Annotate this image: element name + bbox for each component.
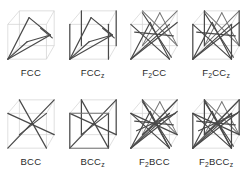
cube-wireframe — [8, 11, 54, 59]
caption-fcc-text: FCC — [21, 67, 41, 78]
bcc-body-diagonals — [8, 100, 54, 148]
caption-f2bcc-z-sub2: z — [230, 161, 234, 168]
cell-fcc: FCC — [0, 0, 62, 89]
caption-bcc-z: BCCz — [80, 157, 104, 167]
caption-f2bcc-z: F2BCCz — [199, 157, 233, 167]
caption-bcc: BCC — [21, 157, 42, 167]
caption-f2cc-z: F2CCz — [202, 68, 230, 78]
cell-fcc-z: FCCz — [62, 0, 124, 89]
f2cc-z-front-struts — [193, 13, 239, 59]
caption-fcc-z: FCCz — [81, 68, 105, 78]
fcc-z-diagram — [64, 3, 122, 67]
art-bcc-z — [64, 92, 122, 156]
fcc-struts — [8, 18, 52, 60]
caption-bcc-z-text: BCC — [80, 156, 101, 167]
art-fcc — [2, 3, 60, 67]
cube-wireframe — [69, 11, 115, 59]
fcc-diagram — [2, 3, 60, 67]
caption-f2bcc-post: BCC — [149, 156, 170, 167]
art-bcc — [2, 92, 60, 156]
cell-bcc-z: BCCz — [62, 89, 124, 178]
caption-f2bcc-z-sub: 2 — [205, 161, 209, 168]
f2bcc-z-body-diagonals — [193, 100, 239, 148]
art-f2cc — [125, 3, 183, 67]
caption-fcc-z-sub: z — [101, 72, 105, 79]
caption-f2bcc-z-post: BCC — [209, 156, 230, 167]
cell-bcc: BCC — [0, 89, 62, 178]
caption-f2bcc-sub: 2 — [145, 161, 149, 168]
caption-bcc-z-sub: z — [101, 161, 105, 168]
cell-f2cc-z: F2CCz — [185, 0, 247, 89]
bcc-z-diagram — [64, 92, 122, 156]
caption-f2cc-z-post: CC — [212, 67, 226, 78]
caption-f2cc-sub: 2 — [148, 72, 152, 79]
caption-f2cc-z-sub2: z — [226, 72, 230, 79]
f2bcc-z-diagram — [187, 92, 245, 156]
caption-f2cc-z-sub: 2 — [208, 72, 212, 79]
bcc-diagram — [2, 92, 60, 156]
caption-f2cc-post: CC — [152, 67, 166, 78]
cell-f2bcc: F2BCC — [124, 89, 186, 178]
cell-f2bcc-z: F2BCCz — [185, 89, 247, 178]
f2bcc-body-diagonals — [131, 100, 177, 148]
cell-grid: FCC — [0, 0, 247, 178]
caption-f2cc: F2CC — [142, 68, 166, 78]
fcc-z-vertical-struts — [69, 11, 115, 59]
caption-f2bcc: F2BCC — [139, 157, 170, 167]
art-fcc-z — [64, 3, 122, 67]
art-f2cc-z — [187, 3, 245, 67]
lattice-topology-figure: FCC — [0, 0, 247, 178]
f2cc-z-diagram — [187, 3, 245, 67]
fcc-z-struts — [69, 18, 113, 60]
f2bcc-diagram — [125, 92, 183, 156]
f2cc-diagram — [125, 3, 183, 67]
art-f2bcc-z — [187, 92, 245, 156]
art-f2bcc — [125, 92, 183, 156]
caption-bcc-text: BCC — [21, 156, 42, 167]
bcc-z-body-diagonals — [69, 100, 115, 148]
cell-f2cc: F2CC — [124, 0, 186, 89]
caption-fcc: FCC — [21, 68, 41, 78]
caption-fcc-z-text: FCC — [81, 67, 101, 78]
f2cc-front-struts — [131, 13, 177, 59]
